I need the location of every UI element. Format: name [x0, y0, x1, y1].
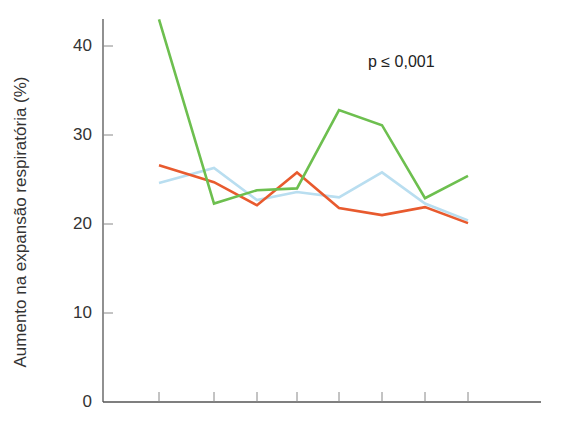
y-tick-label-10: 10 [52, 303, 92, 323]
series-lines [159, 19, 468, 223]
y-tick-label-20: 20 [52, 214, 92, 234]
series-line-green [159, 19, 468, 203]
y-tick-label-40: 40 [52, 36, 92, 56]
y-tick-label-0: 0 [52, 392, 92, 412]
y-tick-label-30: 30 [52, 125, 92, 145]
y-axis-label-container: Aumento na expansão respiratória (%) [6, 0, 36, 435]
y-axis-label: Aumento na expansão respiratória (%) [11, 76, 31, 367]
p-value-annotation: p ≤ 0,001 [368, 53, 435, 71]
axes [103, 19, 541, 402]
